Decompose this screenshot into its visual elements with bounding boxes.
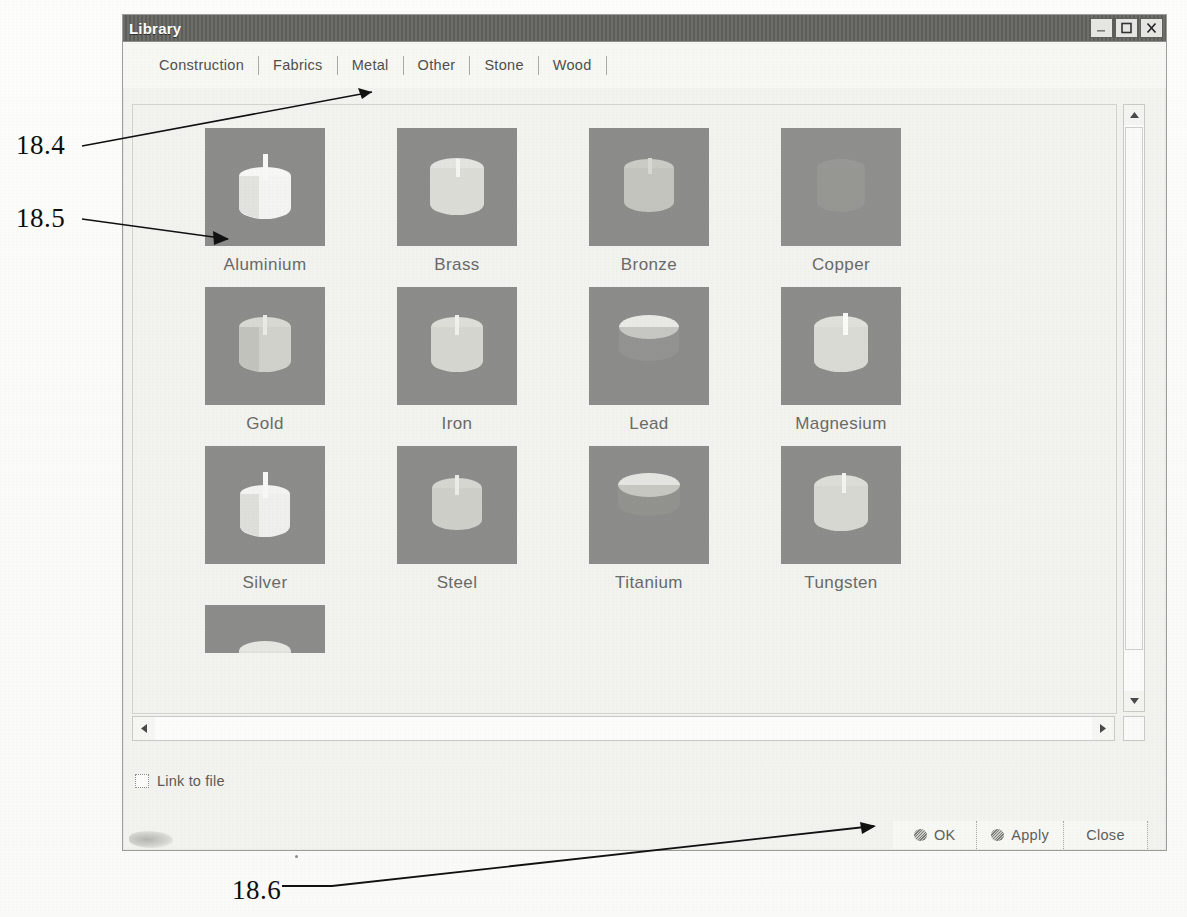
callout-18-4: 18.4 [16, 130, 65, 161]
vertical-scroll-thumb[interactable] [1125, 127, 1143, 650]
horizontal-scrollbar[interactable] [132, 716, 1115, 741]
material-label: Magnesium [795, 414, 886, 434]
material-item[interactable]: Titanium [589, 446, 709, 593]
material-thumbnail [781, 287, 901, 405]
tab-fabrics[interactable]: Fabrics [259, 57, 337, 73]
material-label: Iron [442, 414, 473, 434]
material-thumbnail [589, 446, 709, 564]
link-to-file-checkbox[interactable] [135, 774, 149, 788]
material-item[interactable]: Silver [205, 446, 325, 593]
material-item[interactable]: Copper [781, 128, 901, 275]
dialog-button-bar: OK Apply Close [893, 821, 1148, 849]
material-label: Steel [437, 573, 478, 593]
library-dialog: Library Construction Fabrics Metal Other… [122, 14, 1167, 851]
tab-construction[interactable]: Construction [159, 57, 258, 73]
grid-row-partial [133, 605, 1116, 653]
close-button[interactable]: Close [1064, 821, 1148, 849]
close-button-label: Close [1086, 827, 1125, 843]
material-label: Lead [629, 414, 668, 434]
material-thumbnail [397, 287, 517, 405]
material-item[interactable]: Iron [397, 287, 517, 434]
material-thumbnail [781, 128, 901, 246]
material-thumbnail [205, 605, 325, 653]
material-label: Gold [246, 414, 284, 434]
scroll-down-arrow[interactable] [1124, 691, 1144, 711]
library-list-area: Aluminium Brass [132, 104, 1155, 741]
material-thumbnail [205, 287, 325, 405]
apply-button-label: Apply [1011, 827, 1049, 843]
material-item[interactable] [205, 605, 325, 653]
material-label: Bronze [621, 255, 677, 275]
grid-row: Gold Iron [133, 287, 1116, 434]
grid-row: Aluminium Brass [133, 128, 1116, 275]
maximize-icon[interactable] [1115, 18, 1138, 38]
material-grid: Aluminium Brass [133, 105, 1116, 653]
material-label: Silver [243, 573, 288, 593]
tab-strip: Construction Fabrics Metal Other Stone W… [123, 42, 1166, 88]
scrollbar-corner [1123, 716, 1145, 741]
apply-button[interactable]: Apply [977, 821, 1064, 849]
material-thumbnail [781, 446, 901, 564]
ok-button-label: OK [934, 827, 956, 843]
material-label: Tungsten [804, 573, 877, 593]
material-label: Copper [812, 255, 870, 275]
grid-row: Silver Steel [133, 446, 1116, 593]
close-icon[interactable] [1140, 18, 1163, 38]
material-thumbnail [205, 446, 325, 564]
tab-stone[interactable]: Stone [470, 57, 537, 73]
material-label: Titanium [615, 573, 683, 593]
scan-speck [295, 855, 298, 858]
ok-button[interactable]: OK [893, 821, 977, 849]
tab-wood[interactable]: Wood [539, 57, 606, 73]
material-item[interactable]: Steel [397, 446, 517, 593]
titlebar[interactable]: Library [123, 15, 1166, 42]
tab-separator [606, 56, 607, 75]
callout-18-5: 18.5 [16, 203, 65, 234]
vertical-scrollbar[interactable] [1123, 104, 1145, 712]
sphere-icon [991, 829, 1004, 841]
material-grid-pane[interactable]: Aluminium Brass [132, 104, 1117, 714]
link-to-file-row[interactable]: Link to file [135, 773, 225, 789]
callout-18-6: 18.6 [232, 875, 281, 906]
material-item[interactable]: Tungsten [781, 446, 901, 593]
scan-artifact [129, 831, 173, 848]
link-to-file-label: Link to file [157, 773, 225, 789]
window-controls [1090, 18, 1163, 38]
material-item[interactable]: Brass [397, 128, 517, 275]
material-label: Aluminium [224, 255, 307, 275]
material-label: Brass [434, 255, 479, 275]
tab-other[interactable]: Other [404, 57, 470, 73]
minimize-icon[interactable] [1090, 18, 1113, 38]
scroll-left-arrow[interactable] [133, 717, 155, 740]
material-thumbnail [397, 128, 517, 246]
material-item[interactable]: Aluminium [205, 128, 325, 275]
material-thumbnail [589, 128, 709, 246]
material-item[interactable]: Lead [589, 287, 709, 434]
material-item[interactable]: Bronze [589, 128, 709, 275]
scroll-up-arrow[interactable] [1124, 105, 1144, 125]
material-thumbnail [397, 446, 517, 564]
scroll-right-arrow[interactable] [1092, 717, 1114, 740]
material-thumbnail [205, 128, 325, 246]
sphere-icon [914, 829, 927, 841]
tab-metal[interactable]: Metal [338, 57, 403, 73]
material-item[interactable]: Gold [205, 287, 325, 434]
window-title: Library [129, 20, 181, 37]
material-thumbnail [589, 287, 709, 405]
material-item[interactable]: Magnesium [781, 287, 901, 434]
